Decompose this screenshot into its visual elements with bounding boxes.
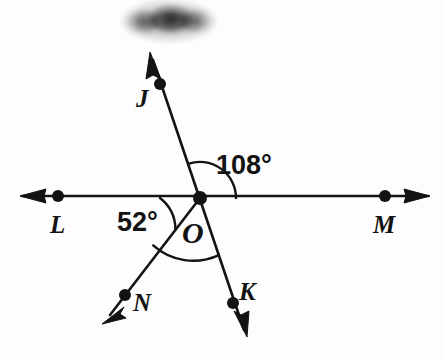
point-K-dot (227, 297, 239, 309)
point-N-dot (119, 289, 131, 301)
points-group (52, 78, 391, 309)
arrowheads-group (20, 52, 430, 337)
point-label-O: O (182, 216, 204, 249)
point-O-dot (193, 191, 207, 205)
arrowhead-K (234, 311, 249, 337)
geometry-figure: J L M N K O 108° 52° (0, 0, 443, 360)
arrowhead-L (20, 189, 46, 203)
arrowhead-M (404, 189, 430, 203)
point-label-N: N (132, 289, 152, 316)
angle-label-108: 108° (216, 150, 272, 180)
geometry-diagram-canvas: J L M N K O 108° 52° (0, 0, 443, 360)
point-labels-group: J L M N K O (49, 85, 396, 316)
point-J-dot (154, 78, 166, 90)
arrowhead-J (146, 52, 161, 79)
point-label-L: L (49, 211, 65, 238)
point-label-M: M (372, 211, 396, 238)
rays-group (22, 60, 428, 330)
point-label-J: J (135, 85, 150, 112)
point-L-dot (52, 190, 64, 202)
point-label-K: K (238, 278, 258, 305)
point-M-dot (379, 190, 391, 202)
angle-label-52: 52° (117, 207, 158, 237)
arc-angle-LON (160, 198, 175, 230)
